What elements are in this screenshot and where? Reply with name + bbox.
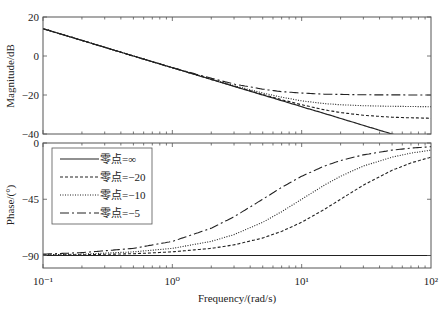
phase-y-axis-label: Phase/(°) <box>4 184 17 225</box>
legend-entry-label: 零点=∞ <box>100 153 136 165</box>
y-tick-label: −90 <box>22 250 40 262</box>
x-tick-label: 10⁻¹ <box>33 275 53 287</box>
y-tick-label: −45 <box>22 193 40 205</box>
series-line-2 <box>43 29 431 107</box>
magnitude-axes: 200−20−40 <box>22 11 431 146</box>
y-tick-label: 0 <box>34 50 40 62</box>
series-line-1 <box>43 29 431 119</box>
x-tick-label: 10⁰ <box>165 275 181 287</box>
series-line-3 <box>43 29 431 95</box>
x-tick-label: 10² <box>424 275 439 287</box>
legend-entry-label: 零点=−10 <box>100 189 146 201</box>
y-tick-label: −20 <box>22 89 40 101</box>
y-tick-label: 20 <box>28 11 40 23</box>
bode-plot-figure: 200−20−40 0−45−9010⁻¹10⁰10¹10² Magnitude… <box>0 0 444 317</box>
legend-entry-label: 零点=−5 <box>100 207 140 219</box>
frequency-x-axis-label: Frequency/(rad/s) <box>198 292 277 305</box>
y-tick-label: 0 <box>34 137 40 149</box>
legend-entry-label: 零点=−20 <box>100 171 146 183</box>
legend: 零点=∞零点=−20零点=−10零点=−5 <box>52 148 152 224</box>
magnitude-y-axis-label: Magnitude/dB <box>4 44 16 108</box>
x-tick-label: 10¹ <box>295 275 309 287</box>
